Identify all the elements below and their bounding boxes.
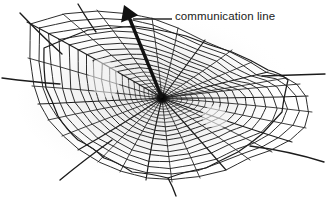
figure-canvas: communication line xyxy=(0,0,327,199)
communication-line-label: communication line xyxy=(175,10,275,22)
annotation-layer: communication line xyxy=(0,0,327,199)
